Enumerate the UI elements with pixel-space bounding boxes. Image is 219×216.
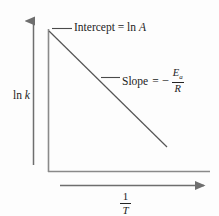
slope-annotation-label: Slope = − Ea R xyxy=(122,68,184,95)
fraction-denominator: R xyxy=(174,83,182,95)
slope-equals-sign: = xyxy=(152,76,159,88)
inverse-temperature-fraction: 1 T xyxy=(120,191,131,216)
fraction-numerator: 1 xyxy=(122,191,130,203)
fraction-numerator: Ea xyxy=(172,68,184,82)
slope-minus-sign: − xyxy=(162,75,169,88)
fraction-denominator: T xyxy=(121,204,129,216)
energy-subscript: a xyxy=(179,73,183,81)
arrhenius-plot-figure: Intercept = ln A Slope = − Ea R ln k 1 T xyxy=(0,0,219,216)
x-axis-label: 1 T xyxy=(120,191,131,216)
activation-energy-fraction: Ea R xyxy=(172,68,184,95)
y-axis-label: ln k xyxy=(13,90,30,102)
slope-annotation-word: Slope xyxy=(122,76,148,88)
intercept-annotation-text: Intercept = ln xyxy=(74,21,139,33)
y-axis-label-prefix: ln xyxy=(13,89,25,101)
y-axis-variable: k xyxy=(25,89,30,101)
intercept-annotation-label: Intercept = ln A xyxy=(74,22,146,34)
intercept-variable: A xyxy=(139,21,146,33)
